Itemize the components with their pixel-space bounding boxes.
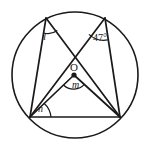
radius-center-to-bottomright [74, 75, 120, 117]
chord-topleft-to-bottomright [46, 18, 120, 117]
circle-geometry-diagram: l 47° O m n [0, 0, 151, 145]
chord-topright-to-bottomright [105, 18, 120, 117]
angle-label-m: m [72, 80, 79, 90]
angle-label-47-degrees: 47° [93, 33, 107, 43]
center-point-dot [71, 72, 76, 77]
angle-label-n: n [38, 104, 43, 114]
angle-arc-n [44, 103, 51, 117]
angle-label-l: l [43, 31, 46, 42]
center-label-O: O [70, 62, 78, 73]
